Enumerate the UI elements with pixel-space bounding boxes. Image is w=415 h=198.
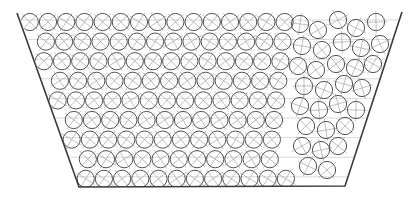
particle bbox=[37, 33, 55, 51]
orientation-mark bbox=[127, 53, 142, 69]
particle bbox=[130, 13, 149, 32]
particle bbox=[35, 53, 52, 70]
orientation-mark bbox=[188, 170, 201, 188]
particle bbox=[158, 92, 175, 109]
particle bbox=[219, 33, 236, 50]
orientation-mark bbox=[138, 113, 156, 126]
particle bbox=[257, 13, 276, 32]
particle bbox=[231, 92, 248, 109]
orientation-mark bbox=[126, 72, 139, 90]
particle bbox=[274, 33, 291, 50]
orientation-mark bbox=[83, 113, 101, 127]
particle bbox=[225, 150, 243, 168]
particle bbox=[249, 92, 266, 109]
orientation-mark bbox=[298, 118, 313, 134]
particle bbox=[350, 37, 372, 59]
orientation-mark bbox=[101, 131, 116, 148]
orientation-mark bbox=[244, 169, 256, 188]
orientation-mark bbox=[87, 75, 105, 87]
orientation-mark bbox=[204, 172, 222, 185]
particle bbox=[237, 32, 256, 51]
orientation-mark bbox=[56, 35, 73, 49]
particle bbox=[208, 130, 227, 149]
particle bbox=[120, 111, 137, 128]
orientation-mark bbox=[146, 52, 160, 70]
particle bbox=[146, 32, 165, 51]
particle bbox=[327, 93, 348, 114]
orientation-mark bbox=[260, 13, 272, 32]
orientation-mark bbox=[275, 33, 290, 49]
particle bbox=[201, 32, 219, 50]
orientation-mark bbox=[312, 20, 323, 39]
particle bbox=[51, 72, 70, 91]
orientation-mark bbox=[351, 85, 372, 92]
particle bbox=[215, 72, 233, 90]
orientation-mark bbox=[314, 86, 335, 94]
particle bbox=[128, 33, 146, 51]
orientation-mark bbox=[329, 55, 343, 73]
orientation-mark bbox=[86, 93, 103, 107]
particle bbox=[188, 151, 205, 168]
orientation-mark bbox=[148, 16, 166, 28]
particle bbox=[204, 170, 222, 188]
orientation-mark bbox=[151, 153, 169, 166]
particle bbox=[289, 57, 306, 74]
orientation-mark bbox=[246, 131, 261, 148]
orientation-mark bbox=[68, 92, 83, 108]
orientation-mark bbox=[319, 163, 336, 178]
orientation-mark bbox=[182, 36, 201, 48]
particle bbox=[79, 151, 96, 168]
particle bbox=[179, 72, 197, 90]
particle bbox=[124, 72, 142, 90]
particle bbox=[115, 150, 134, 169]
orientation-mark bbox=[60, 13, 72, 31]
particle bbox=[291, 35, 313, 57]
orientation-mark bbox=[115, 154, 134, 165]
orientation-mark bbox=[327, 101, 348, 107]
particle bbox=[117, 131, 135, 149]
orientation-mark bbox=[263, 151, 277, 168]
particle bbox=[190, 131, 207, 148]
orientation-mark bbox=[159, 92, 174, 108]
orientation-mark bbox=[237, 53, 252, 70]
orientation-mark bbox=[164, 36, 183, 48]
orientation-mark bbox=[143, 73, 160, 88]
orientation-mark bbox=[368, 54, 379, 73]
orientation-mark bbox=[80, 151, 95, 167]
orientation-mark bbox=[220, 34, 235, 50]
particle bbox=[95, 170, 113, 188]
orientation-mark bbox=[182, 53, 196, 70]
particle bbox=[151, 150, 169, 168]
orientation-mark bbox=[307, 63, 325, 76]
hopper-diagram: Circular particles packed in a trapezoid… bbox=[0, 0, 415, 198]
diagram-canvas bbox=[0, 0, 415, 198]
orientation-mark bbox=[237, 36, 256, 48]
orientation-mark bbox=[210, 114, 228, 127]
orientation-mark bbox=[172, 133, 189, 147]
particle bbox=[235, 53, 252, 70]
particle bbox=[161, 72, 178, 89]
particle bbox=[97, 150, 116, 169]
particle bbox=[126, 53, 143, 70]
particle bbox=[233, 72, 251, 90]
orientation-mark bbox=[264, 132, 280, 147]
orientation-mark bbox=[132, 172, 149, 186]
orientation-mark bbox=[142, 92, 156, 109]
particle bbox=[76, 13, 94, 31]
orientation-mark bbox=[92, 34, 108, 49]
orientation-mark bbox=[104, 111, 117, 129]
particle bbox=[240, 169, 259, 188]
particle bbox=[293, 75, 315, 97]
particle bbox=[56, 33, 73, 50]
particle bbox=[73, 33, 91, 51]
orientation-mark bbox=[337, 118, 353, 133]
orientation-mark bbox=[189, 151, 204, 167]
orientation-mark bbox=[230, 130, 241, 149]
orientation-mark bbox=[67, 111, 81, 129]
orientation-mark bbox=[163, 54, 179, 69]
particle bbox=[203, 13, 220, 30]
particle bbox=[195, 92, 212, 109]
orientation-mark bbox=[162, 73, 177, 89]
orientation-mark bbox=[78, 13, 92, 31]
particle bbox=[186, 170, 204, 188]
